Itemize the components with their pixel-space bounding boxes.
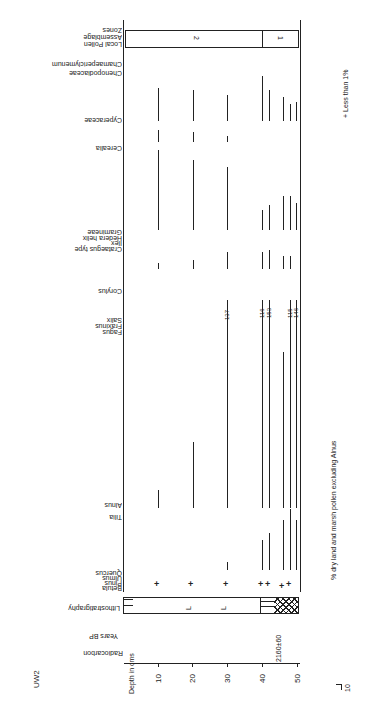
legend-plus: + Less than 1% xyxy=(342,70,349,118)
plus-marker: + xyxy=(258,580,263,589)
bar xyxy=(296,520,297,570)
bar xyxy=(283,196,284,230)
bar xyxy=(296,102,297,121)
plus-marker: + xyxy=(188,580,193,589)
taxon-cerealia: Cerealia xyxy=(96,145,122,152)
litho-divider xyxy=(260,601,274,602)
bar xyxy=(193,260,194,269)
alnus-annot-116: 116 xyxy=(259,308,266,318)
taxon-chamaepericlymenum: Chamaepericlymenum xyxy=(52,61,122,68)
taxon-chenopodiaceae: Chenopodiaceae xyxy=(69,70,122,77)
bar xyxy=(283,520,284,570)
years-bp-label: Years BP xyxy=(89,633,118,640)
bar xyxy=(269,300,270,508)
bar xyxy=(269,250,270,269)
plus-marker: + xyxy=(279,582,284,591)
tick xyxy=(297,663,298,667)
tick xyxy=(262,663,263,667)
scale-bar-label: 10 xyxy=(344,684,351,692)
bar xyxy=(193,132,194,142)
taxon-tilia: Tilia xyxy=(109,514,122,521)
litho-mark-L: L xyxy=(220,606,227,610)
bar xyxy=(283,352,284,508)
bar xyxy=(227,95,228,121)
bottom-axis-label: % dry land and marsh pollen excluding Al… xyxy=(330,441,337,580)
bar xyxy=(269,90,270,121)
bar xyxy=(290,256,291,269)
depth-axis-line xyxy=(124,663,300,664)
pollen-diagram: UW2 Depth in cms 10 20 30 40 50 Radiocar… xyxy=(0,0,377,711)
tick xyxy=(158,663,159,667)
bar xyxy=(193,90,194,121)
zones-label-1: Local Pollen xyxy=(84,41,122,48)
depth-tick-10: 10 xyxy=(155,674,162,683)
taxon-salix: Salix xyxy=(107,317,122,324)
bar xyxy=(227,252,228,269)
bar xyxy=(290,509,291,570)
bar xyxy=(158,130,159,142)
tick xyxy=(192,663,193,667)
bar xyxy=(262,252,263,269)
litho-divider xyxy=(123,605,133,606)
bar xyxy=(296,300,297,508)
plus-marker: + xyxy=(265,580,270,589)
depth-tick-50: 50 xyxy=(294,674,301,683)
bar xyxy=(193,160,194,230)
depth-tick-20: 20 xyxy=(189,674,196,683)
taxon-quercus: Quercus xyxy=(96,570,122,577)
taxon-crataegus: Crataegus type xyxy=(75,246,122,253)
taxon-hedera: Hedera helix xyxy=(83,235,122,242)
plus-marker: + xyxy=(286,580,291,589)
zones-label-2: Assemblage xyxy=(83,34,122,41)
bar xyxy=(227,136,228,142)
litho-divider xyxy=(123,599,133,600)
alnus-annot-137: 137 xyxy=(224,310,231,320)
depth-tick-40: 40 xyxy=(259,674,266,683)
zone-column xyxy=(125,30,299,48)
bar xyxy=(262,76,263,121)
bar xyxy=(262,540,263,570)
bar xyxy=(158,263,159,269)
zone-2: 2 xyxy=(193,36,200,40)
alnus-annot-153: 153 xyxy=(266,308,273,318)
litho-mark-L: L xyxy=(185,606,192,610)
bar xyxy=(227,562,228,570)
zone-1: 1 xyxy=(277,36,284,40)
bar xyxy=(283,97,284,121)
taxon-fagus: Fagus xyxy=(103,329,122,336)
bar xyxy=(262,300,263,508)
plus-marker: + xyxy=(223,580,228,589)
bar xyxy=(296,203,297,230)
taxon-fraxinus: Fraxinus xyxy=(95,323,122,330)
bar xyxy=(262,210,263,230)
litho-hatch xyxy=(274,598,298,613)
bar xyxy=(193,442,194,508)
site-label: UW2 xyxy=(33,670,40,688)
taxa-baseline xyxy=(123,20,124,592)
alnus-annot-146: 146 xyxy=(293,308,300,318)
radiocarbon-date: 2160±60 xyxy=(275,635,282,662)
bar xyxy=(269,533,270,570)
taxon-cyperaceae: Cyperaceae xyxy=(84,117,122,124)
zone-boundary xyxy=(262,30,263,48)
radiocarbon-label: Radiocarbon xyxy=(83,650,123,657)
bar xyxy=(269,205,270,230)
plus-marker: + xyxy=(154,580,159,589)
bar xyxy=(158,150,159,230)
depth-axis-label: Depth in cms xyxy=(128,653,135,694)
taxon-gramineae: Gramineae xyxy=(87,229,122,236)
bar xyxy=(290,300,291,508)
bar xyxy=(158,88,159,121)
bar xyxy=(158,490,159,508)
bar xyxy=(290,196,291,230)
taxon-alnus: Alnus xyxy=(104,502,122,509)
bar xyxy=(227,300,228,508)
bar xyxy=(283,256,284,269)
bar xyxy=(227,167,228,230)
tick xyxy=(227,663,228,667)
taxon-corylus: Corylus xyxy=(98,288,122,295)
litho-divider xyxy=(260,606,274,607)
bar xyxy=(290,104,291,121)
scale-bar xyxy=(341,684,342,690)
lithostratigraphy-label: Lithostratigraphy xyxy=(68,605,120,612)
